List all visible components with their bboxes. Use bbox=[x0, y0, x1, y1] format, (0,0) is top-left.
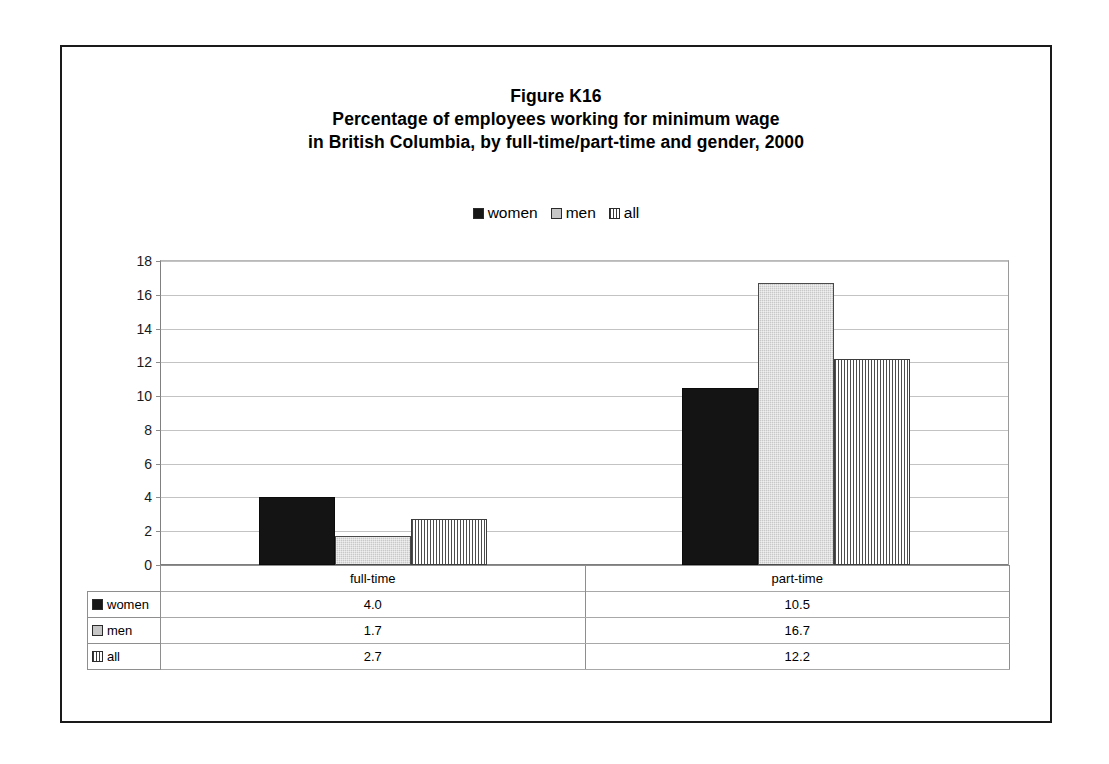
legend-entry-women: women bbox=[473, 204, 538, 222]
bar-men-full-time bbox=[335, 536, 411, 565]
ytick-label-12: 12 bbox=[136, 354, 152, 370]
bar-men-part-time bbox=[758, 283, 834, 565]
plot-area: 181614121086420 bbox=[160, 260, 1009, 565]
gridline-14 bbox=[161, 329, 1008, 330]
table-series-label-all: all bbox=[107, 649, 120, 664]
ytick-mark-14 bbox=[156, 329, 161, 330]
ytick-label-16: 16 bbox=[136, 287, 152, 303]
table-cell-all-part-time: 12.2 bbox=[585, 644, 1010, 670]
table-row: women 4.0 10.5 bbox=[88, 592, 1010, 618]
table-row: all 2.7 12.2 bbox=[88, 644, 1010, 670]
data-table: full-time part-time women 4.0 10.5 men bbox=[87, 565, 1010, 670]
ytick-mark-2 bbox=[156, 531, 161, 532]
table-header-part-time: part-time bbox=[585, 566, 1010, 592]
table-series-cell-women: women bbox=[88, 592, 161, 618]
table-swatch-men-icon bbox=[92, 625, 103, 636]
legend-swatch-all-icon bbox=[609, 208, 620, 219]
chart-legend: women men all bbox=[62, 204, 1050, 222]
bar-women-part-time bbox=[682, 388, 758, 565]
gridline-16 bbox=[161, 295, 1008, 296]
ytick-mark-4 bbox=[156, 497, 161, 498]
bar-all-full-time bbox=[411, 519, 487, 565]
chart-title-line-1: Figure K16 bbox=[62, 85, 1050, 108]
table-header-full-time: full-time bbox=[161, 566, 586, 592]
legend-entry-all: all bbox=[609, 204, 640, 222]
table-series-cell-all: all bbox=[88, 644, 161, 670]
ytick-mark-10 bbox=[156, 396, 161, 397]
table-series-label-women: women bbox=[107, 597, 149, 612]
ytick-label-6: 6 bbox=[144, 456, 152, 472]
ytick-mark-8 bbox=[156, 430, 161, 431]
ytick-label-2: 2 bbox=[144, 523, 152, 539]
bar-all-part-time bbox=[834, 359, 910, 565]
bar-women-full-time bbox=[259, 497, 335, 565]
chart-title-line-3: in British Columbia, by full-time/part-t… bbox=[62, 131, 1050, 154]
chart-title-line-2: Percentage of employees working for mini… bbox=[62, 108, 1050, 131]
table-cell-women-full-time: 4.0 bbox=[161, 592, 586, 618]
table-swatch-all-icon bbox=[92, 651, 103, 662]
legend-label-all: all bbox=[624, 204, 640, 222]
ytick-label-4: 4 bbox=[144, 489, 152, 505]
legend-entry-men: men bbox=[551, 204, 596, 222]
gridline-18 bbox=[161, 261, 1008, 262]
table-cell-men-part-time: 16.7 bbox=[585, 618, 1010, 644]
ytick-mark-12 bbox=[156, 362, 161, 363]
legend-swatch-women-icon bbox=[473, 208, 484, 219]
ytick-mark-18 bbox=[156, 261, 161, 262]
legend-label-men: men bbox=[566, 204, 596, 222]
table-cell-all-full-time: 2.7 bbox=[161, 644, 586, 670]
table-series-label-men: men bbox=[107, 623, 132, 638]
table-swatch-women-icon bbox=[92, 599, 103, 610]
figure-frame: Figure K16 Percentage of employees worki… bbox=[60, 45, 1052, 723]
table-cell-women-part-time: 10.5 bbox=[585, 592, 1010, 618]
legend-label-women: women bbox=[488, 204, 538, 222]
ytick-mark-16 bbox=[156, 295, 161, 296]
ytick-label-10: 10 bbox=[136, 388, 152, 404]
ytick-label-18: 18 bbox=[136, 253, 152, 269]
ytick-label-8: 8 bbox=[144, 422, 152, 438]
table-row: men 1.7 16.7 bbox=[88, 618, 1010, 644]
table-header-row: full-time part-time bbox=[88, 566, 1010, 592]
table-cell-men-full-time: 1.7 bbox=[161, 618, 586, 644]
ytick-label-14: 14 bbox=[136, 321, 152, 337]
ytick-mark-6 bbox=[156, 464, 161, 465]
chart-title-block: Figure K16 Percentage of employees worki… bbox=[62, 85, 1050, 154]
table-corner-cell bbox=[88, 566, 161, 592]
legend-swatch-men-icon bbox=[551, 208, 562, 219]
table-series-cell-men: men bbox=[88, 618, 161, 644]
